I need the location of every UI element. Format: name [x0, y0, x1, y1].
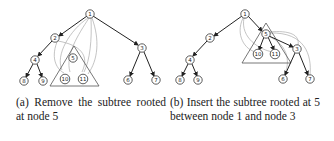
tree-node-9: 9: [194, 76, 202, 84]
tree-node-5: 5: [262, 30, 270, 38]
svg-text:3: 3: [140, 45, 144, 51]
tree-node-10: 10: [60, 74, 70, 84]
svg-text:8: 8: [178, 77, 182, 83]
svg-text:5: 5: [264, 31, 268, 37]
tree-node-1: 1: [241, 10, 249, 18]
tree-node-4: 4: [31, 56, 39, 64]
caption-b: (b) Insert the subtree rooted at 5 betwe…: [170, 95, 320, 123]
svg-text:2: 2: [208, 35, 212, 41]
tree-node-10: 10: [253, 49, 263, 59]
tree-node-7: 7: [306, 75, 314, 83]
svg-text:9: 9: [196, 77, 200, 83]
tree-node-11: 11: [270, 49, 280, 59]
svg-text:4: 4: [188, 57, 192, 63]
tree-node-8: 8: [20, 77, 28, 85]
tree-node-11: 11: [78, 74, 88, 84]
tree-node-3: 3: [138, 44, 146, 52]
svg-text:1: 1: [88, 11, 92, 17]
svg-text:6: 6: [281, 76, 285, 82]
tree-node-2: 2: [206, 34, 214, 42]
svg-text:2: 2: [53, 35, 57, 41]
svg-text:7: 7: [308, 76, 312, 82]
subtree-triangle: [50, 46, 99, 86]
svg-text:11: 11: [80, 76, 87, 82]
svg-text:3: 3: [295, 46, 299, 52]
svg-text:1: 1: [243, 11, 247, 17]
tree-node-2: 2: [51, 34, 59, 42]
svg-text:7: 7: [154, 77, 158, 83]
svg-text:6: 6: [126, 77, 130, 83]
svg-text:11: 11: [272, 51, 279, 57]
tree-node-7: 7: [152, 76, 160, 84]
svg-text:5: 5: [71, 55, 75, 61]
caption-a: (a) Remove the subtree rooted at node 5: [16, 95, 166, 123]
svg-text:9: 9: [41, 78, 45, 84]
svg-text:8: 8: [22, 78, 26, 84]
tree-node-3: 3: [293, 45, 301, 53]
tree-node-8: 8: [176, 76, 184, 84]
tree-node-5: 5: [69, 54, 77, 62]
svg-text:10: 10: [255, 51, 262, 57]
tree-node-1: 1: [86, 10, 94, 18]
panel-a: 1234567891011: [20, 10, 160, 86]
tree-node-4: 4: [186, 56, 194, 64]
tree-node-9: 9: [39, 77, 47, 85]
svg-text:10: 10: [62, 76, 69, 82]
svg-text:4: 4: [33, 57, 37, 63]
panel-b: 1234567891011: [176, 10, 314, 84]
tree-node-6: 6: [124, 76, 132, 84]
tree-node-6: 6: [279, 75, 287, 83]
